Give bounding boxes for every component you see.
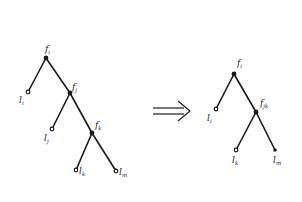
label-li: li [19, 95, 24, 106]
leaf-lm [273, 148, 277, 152]
leaf-lm [114, 169, 118, 173]
label-fjk: fjk [259, 98, 269, 110]
edge-fi-fj [46, 58, 70, 93]
edge-fk-lk [76, 133, 92, 170]
label-fi: fi [44, 44, 50, 55]
leaf-lj [50, 127, 54, 131]
leaf-li [214, 107, 218, 111]
edge-fi-fjk [234, 74, 256, 112]
node-fi [44, 56, 49, 61]
label-lj: lj [44, 133, 49, 145]
implies-arrow-icon [153, 101, 190, 121]
edge-fk-lm [92, 133, 116, 171]
label-lk: lk [232, 155, 239, 166]
edge-fjk-lk [236, 112, 256, 150]
edge-fj-lj [52, 93, 70, 129]
leaf-lk [234, 148, 238, 152]
label-lm: lm [273, 155, 281, 166]
leaf-lk [74, 168, 78, 172]
edge-fi-li [28, 58, 46, 92]
label-fi: fi [236, 58, 242, 69]
edge-fjk-lm [256, 112, 275, 150]
right-tree: fi li fjk lk lm [207, 58, 281, 166]
label-lk: lk [79, 166, 86, 177]
edge-fi-li [216, 74, 234, 109]
tree-transformation-diagram: fi li fj lj fk lk lm fi li fjk lk lm [0, 0, 302, 202]
leaf-li [26, 90, 30, 94]
label-li: li [207, 113, 212, 124]
label-fk: fk [94, 120, 102, 131]
node-fi [232, 72, 237, 77]
left-tree: fi li fj lj fk lk lm [19, 44, 127, 178]
node-fk [90, 131, 95, 136]
label-lm: lm [119, 167, 127, 178]
node-fjk [254, 110, 259, 115]
edge-fj-fk [70, 93, 92, 133]
